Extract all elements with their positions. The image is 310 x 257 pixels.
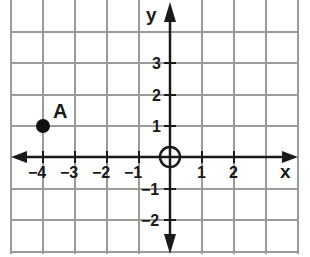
x-tick-label: −4 [28,164,46,181]
point-a-dot [36,119,50,133]
x-tick-label: 1 [197,164,206,181]
x-axis [11,151,298,163]
y-axis-label: y [146,4,157,25]
x-tick-label: −3 [60,164,78,181]
y-axis [164,2,176,254]
y-tick-label: −1 [141,181,159,198]
y-tick-label: 3 [152,55,161,72]
x-axis-label: x [280,161,291,182]
point-a-label: A [53,100,67,122]
y-tick-label: 2 [152,87,161,104]
coordinate-grid: y x −4 −3 −2 −1 1 2 3 2 1 −1 −2 A [0,0,310,257]
x-tick-label: 2 [229,164,238,181]
x-tick-label: −2 [92,164,110,181]
x-tick-labels: −4 −3 −2 −1 1 2 [28,164,238,181]
y-tick-label: 1 [152,118,161,135]
point-a: A [36,100,67,133]
y-tick-label: −2 [141,212,159,229]
x-tick-label: −1 [124,164,142,181]
y-tick-labels: 3 2 1 −1 −2 [141,55,161,229]
